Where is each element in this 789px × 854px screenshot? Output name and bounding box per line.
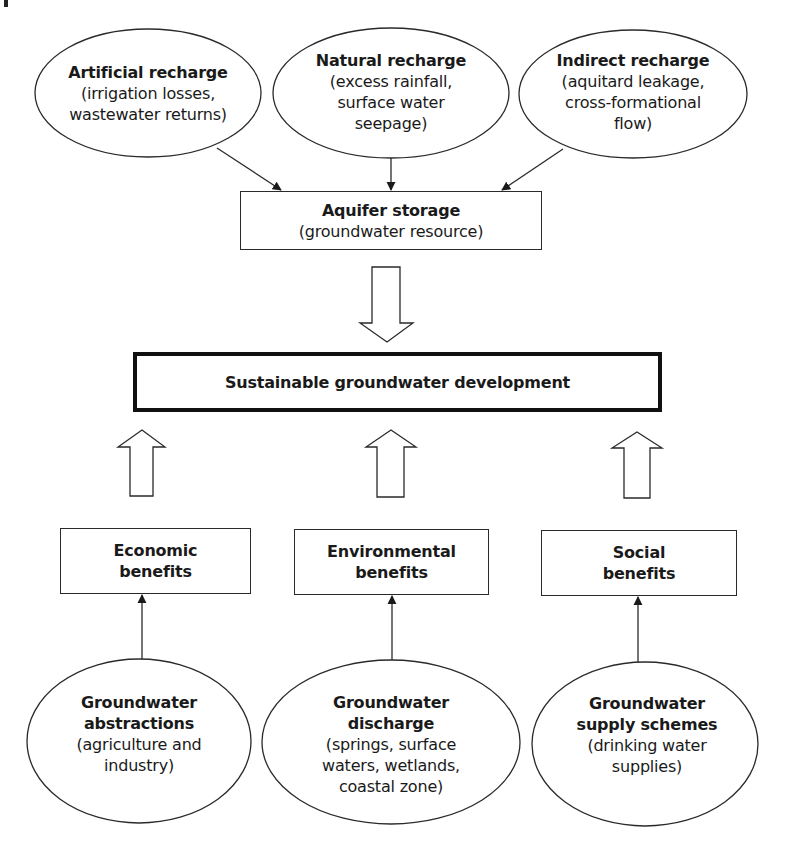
- discharge-line-3: coastal zone): [339, 776, 443, 797]
- indirect-recharge-node: Indirect recharge (aquitard leakage, cro…: [525, 50, 741, 160]
- artificial-recharge-node: Artificial recharge (irrigation losses, …: [40, 38, 256, 148]
- natural-recharge-line-2: surface water: [337, 92, 444, 113]
- discharge-line-1: (springs, surface: [326, 734, 456, 755]
- hollow-up-arrow-social: [612, 432, 662, 498]
- abstractions-line-1: (agriculture and: [76, 734, 201, 755]
- natural-recharge-node: Natural recharge (excess rainfall, surfa…: [283, 50, 499, 160]
- environmental-benefits-box: Environmental benefits: [294, 529, 489, 595]
- artificial-recharge-title: Artificial recharge: [68, 62, 227, 83]
- natural-recharge-title: Natural recharge: [316, 50, 466, 71]
- discharge-title-line-2: discharge: [348, 713, 435, 734]
- economic-benefits-box: Economic benefits: [60, 528, 251, 594]
- hollow-up-arrow-environmental: [366, 430, 416, 497]
- abstractions-title-line-1: Groundwater: [81, 692, 197, 713]
- artificial-recharge-line-1: (irrigation losses,: [81, 83, 215, 104]
- indirect-recharge-line-3: flow): [614, 113, 652, 134]
- sustainable-development-title: Sustainable groundwater development: [225, 372, 570, 393]
- aquifer-storage-box: Aquifer storage (groundwater resource): [240, 191, 542, 250]
- artificial-recharge-line-2: wastewater returns): [69, 104, 227, 125]
- abstractions-node: Groundwater abstractions (agriculture an…: [36, 692, 242, 792]
- indirect-recharge-line-1: (aquitard leakage,: [562, 71, 705, 92]
- sustainable-development-box: Sustainable groundwater development: [133, 352, 662, 412]
- social-benefits-line-1: Social: [613, 542, 666, 563]
- abstractions-title-line-2: abstractions: [84, 713, 194, 734]
- environmental-benefits-line-2: benefits: [355, 562, 428, 583]
- discharge-node: Groundwater discharge (springs, surface …: [284, 692, 498, 802]
- supply-line-1: (drinking water: [587, 735, 706, 756]
- hollow-down-arrow: [360, 267, 413, 342]
- discharge-line-2: waters, wetlands,: [322, 755, 460, 776]
- arrow-artificial-to-storage: [217, 148, 281, 190]
- hollow-up-arrow-economic: [118, 430, 165, 496]
- economic-benefits-line-2: benefits: [119, 561, 192, 582]
- natural-recharge-line-3: seepage): [355, 113, 428, 134]
- aquifer-storage-subtitle: (groundwater resource): [299, 221, 484, 242]
- supply-node: Groundwater supply schemes (drinking wat…: [544, 693, 750, 793]
- natural-recharge-line-1: (excess rainfall,: [330, 71, 452, 92]
- discharge-title-line-1: Groundwater: [333, 692, 449, 713]
- abstractions-line-2: industry): [104, 755, 174, 776]
- supply-title-line-1: Groundwater: [589, 693, 705, 714]
- environmental-benefits-line-1: Environmental: [327, 541, 456, 562]
- aquifer-storage-title: Aquifer storage: [322, 200, 460, 221]
- supply-title-line-2: supply schemes: [577, 714, 718, 735]
- economic-benefits-line-1: Economic: [114, 540, 198, 561]
- social-benefits-box: Social benefits: [541, 530, 737, 596]
- supply-line-2: supplies): [612, 756, 682, 777]
- indirect-recharge-title: Indirect recharge: [557, 50, 710, 71]
- social-benefits-line-2: benefits: [603, 563, 676, 584]
- indirect-recharge-line-2: cross-formational: [565, 92, 701, 113]
